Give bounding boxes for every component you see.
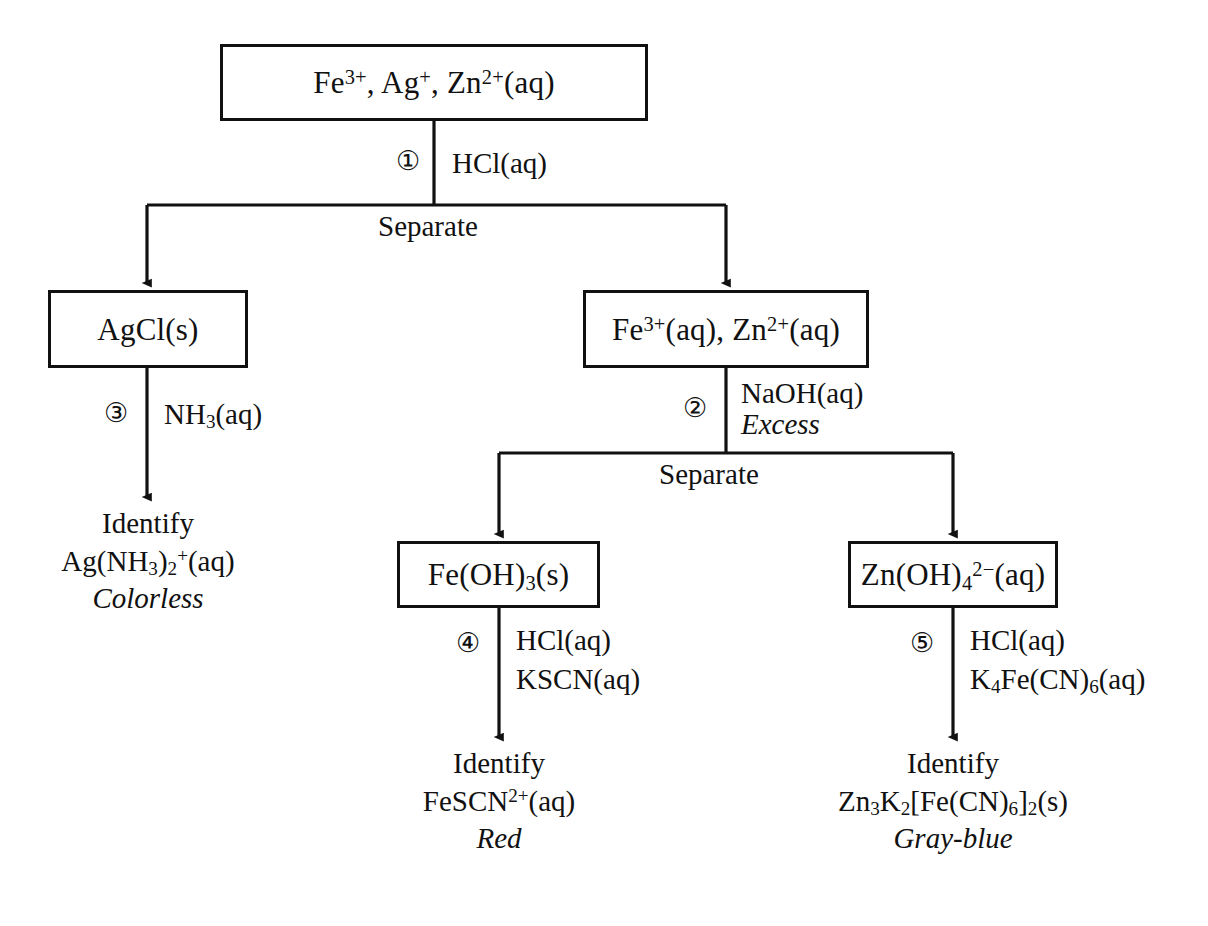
agcl-formula: AgCl(s) xyxy=(97,314,198,345)
start-mixture-formula: Fe3+, Ag+, Zn2+(aq) xyxy=(313,67,554,98)
iron-species: FeSCN2+(aq) xyxy=(349,783,649,821)
zincate-formula: Zn(OH)42−(aq) xyxy=(861,559,1045,590)
step-1-reagent: HCl(aq) xyxy=(452,147,547,179)
flowchart-canvas: Fe3+, Ag+, Zn2+(aq) AgCl(s) Fe3+(aq), Zn… xyxy=(0,0,1208,926)
silver-color: Colorless xyxy=(0,580,296,618)
fe-hydroxide-formula: Fe(OH)3(s) xyxy=(428,559,569,590)
start-mixture-box: Fe3+, Ag+, Zn2+(aq) xyxy=(220,44,648,121)
step-3-number: ③ xyxy=(104,400,128,427)
separate-label-2: Separate xyxy=(659,458,759,491)
silver-identify-label: Identify xyxy=(0,505,296,543)
iron-result: Identify FeSCN2+(aq) Red xyxy=(349,745,649,858)
fe-zn-formula: Fe3+(aq), Zn2+(aq) xyxy=(612,314,840,345)
step-3-reagent: NH3(aq) xyxy=(164,398,262,430)
step-1-number: ① xyxy=(396,148,420,175)
iron-identify-label: Identify xyxy=(349,745,649,783)
step-4-reagent-line-1: HCl(aq) xyxy=(516,624,611,656)
step-2-note: Excess xyxy=(741,408,820,440)
step-4-number: ④ xyxy=(456,630,480,657)
zinc-identify-label: Identify xyxy=(793,745,1113,783)
step-2-number: ② xyxy=(683,395,707,422)
step-2-reagent: NaOH(aq) xyxy=(741,377,863,409)
step-5-number: ⑤ xyxy=(910,630,934,657)
zinc-result: Identify Zn3K2[Fe(CN)6]2(s) Gray-blue xyxy=(793,745,1113,858)
zincate-box: Zn(OH)42−(aq) xyxy=(848,541,1058,608)
fe-hydroxide-box: Fe(OH)3(s) xyxy=(397,541,600,608)
separate-label-1: Separate xyxy=(378,210,478,243)
silver-species: Ag(NH3)2+(aq) xyxy=(0,543,296,581)
zinc-color: Gray-blue xyxy=(793,820,1113,858)
silver-result: Identify Ag(NH3)2+(aq) Colorless xyxy=(0,505,296,618)
iron-color: Red xyxy=(349,820,649,858)
zinc-species: Zn3K2[Fe(CN)6]2(s) xyxy=(793,783,1113,821)
agcl-box: AgCl(s) xyxy=(48,290,248,368)
step-5-reagent-line-1: HCl(aq) xyxy=(970,624,1065,656)
step-4-reagent-line-2: KSCN(aq) xyxy=(516,663,640,695)
fe-zn-box: Fe3+(aq), Zn2+(aq) xyxy=(583,290,869,368)
step-5-reagent-line-2: K4Fe(CN)6(aq) xyxy=(970,663,1145,695)
